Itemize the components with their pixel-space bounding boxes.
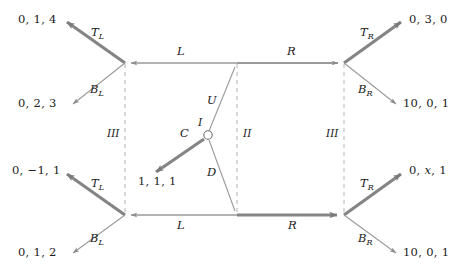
edge-label-top-R: R [287, 46, 296, 58]
edge-label-bottom-right-T: TR [360, 178, 374, 192]
edge-label-bottom-right-T-sub: R [368, 183, 374, 192]
edge-label-top-right-T-sub: R [368, 32, 374, 41]
payoff-bottom-right-lower: 10, 0, 1 [403, 247, 449, 259]
payoff-bottom-left-upper: 0, −1, 1 [12, 165, 61, 177]
edge-root-C [156, 139, 204, 172]
edge-label-top-right-T: TR [360, 27, 374, 41]
edge-label-bottom-L: L [177, 220, 185, 232]
payoff-top-right-upper: 0, 3, 0 [409, 14, 448, 26]
edge-label-bottom-left-T: TL [91, 178, 104, 192]
edge-label-chance-U: U [207, 95, 217, 107]
payoff-bottom-right-upper-prefix: 0, [409, 163, 425, 177]
edge-label-top-L: L [177, 46, 185, 58]
payoff-bottom-left-lower: 0, 1, 2 [18, 247, 57, 259]
edge-label-top-right-T-main: T [360, 25, 368, 39]
payoff-bottom-right-upper-suffix: , 1 [431, 163, 447, 177]
game-tree-figure: 0, 1, 4 0, 2, 3 0, 3, 0 10, 0, 1 0, −1, … [0, 0, 464, 270]
info-set-label-middle: II [243, 128, 251, 139]
edge-label-top-left-T-sub: L [99, 32, 104, 41]
info-set-label-right: III [326, 128, 338, 139]
edge-label-bottom-R: R [288, 220, 297, 232]
edge-label-bottom-left-T-main: T [91, 176, 99, 190]
edge-label-bottom-left-B: BL [90, 233, 104, 247]
edge-label-bottom-right-B: BR [358, 233, 372, 247]
tree-graphics [0, 0, 464, 270]
payoff-chance-left: 1, 1, 1 [138, 176, 177, 188]
edge-label-chance-D: D [207, 167, 216, 179]
payoff-top-left-upper: 0, 1, 4 [18, 14, 57, 26]
edge-label-top-right-B-sub: R [366, 89, 372, 98]
root-node-label: I [198, 117, 202, 128]
edge-label-top-left-T-main: T [91, 25, 99, 39]
edge-label-bottom-left-T-sub: L [99, 183, 104, 192]
root-node-circle [204, 131, 212, 139]
edge-label-top-left-B: BL [90, 84, 104, 98]
edge-label-chance-C: C [180, 128, 189, 140]
edge-label-bottom-left-B-sub: L [98, 238, 103, 247]
edge-label-bottom-right-T-main: T [360, 176, 368, 190]
edge-label-bottom-right-B-sub: R [366, 238, 372, 247]
info-set-label-left: III [107, 128, 119, 139]
edge-label-top-right-B: BR [358, 84, 372, 98]
payoff-top-left-lower: 0, 2, 3 [18, 98, 57, 110]
payoff-top-right-lower: 10, 0, 1 [403, 98, 449, 110]
edge-label-top-left-B-sub: L [98, 89, 103, 98]
payoff-bottom-right-upper: 0, x, 1 [409, 165, 447, 177]
edge-label-top-left-T: TL [91, 27, 104, 41]
